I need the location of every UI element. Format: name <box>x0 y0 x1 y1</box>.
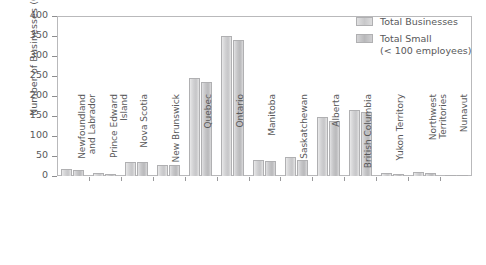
bar <box>317 117 328 176</box>
bar-fill <box>157 165 168 176</box>
y-axis-tick-label: 200 <box>30 89 48 100</box>
x-axis-label-line: Yukon Territory <box>396 94 406 184</box>
x-axis-label: Nunavut <box>460 94 470 184</box>
x-axis-label: NorthwestTerritories <box>429 94 448 184</box>
bar <box>61 169 72 176</box>
x-axis-label: Yukon Territory <box>396 94 406 184</box>
y-axis-tick-label: 100 <box>30 129 48 140</box>
x-axis-label: British Columbia <box>364 94 374 184</box>
legend-swatch-total-small <box>356 34 373 43</box>
bar <box>349 110 360 176</box>
bar-fill <box>413 172 424 176</box>
x-axis-tick-mark <box>217 177 218 181</box>
y-axis-tick-label: 50 <box>36 149 48 160</box>
x-axis-label: Alberta <box>332 94 342 184</box>
x-axis-label-line: Nunavut <box>460 94 470 184</box>
x-axis-tick-mark <box>280 177 281 181</box>
x-axis-label: Prince EdwardIsland <box>110 94 129 184</box>
x-axis-tick-mark <box>408 177 409 181</box>
x-axis-label: Manitoba <box>268 94 278 184</box>
bar-chart: Number of Businesses (000's) 05010015020… <box>0 0 486 265</box>
x-axis-tick-mark <box>249 177 250 181</box>
bar-fill <box>381 173 392 176</box>
legend-swatch-total-businesses <box>356 17 373 26</box>
bar-fill <box>61 169 72 176</box>
legend-label-total-small-line2: (< 100 employees) <box>380 45 478 57</box>
x-axis-tick-mark <box>185 177 186 181</box>
bar-fill <box>317 117 328 176</box>
bar <box>381 173 392 176</box>
x-axis-label: Quebec <box>204 94 214 184</box>
x-axis-label-line: and Labrador <box>87 94 97 184</box>
x-axis-label-line: Alberta <box>332 94 342 184</box>
y-axis-tick-label: 400 <box>30 9 48 20</box>
y-axis-tick-label: 150 <box>30 109 48 120</box>
x-axis-tick-mark <box>312 177 313 181</box>
bar-fill <box>253 160 264 176</box>
bar <box>189 78 200 176</box>
y-axis-tick-label: 0 <box>42 169 48 180</box>
x-axis-label-line: Quebec <box>204 94 214 184</box>
x-axis-tick-mark <box>153 177 154 181</box>
x-axis-label: Newfoundlandand Labrador <box>78 94 97 184</box>
bar <box>221 36 232 176</box>
bar-fill <box>221 36 232 176</box>
legend-item-total-businesses: Total Businesses <box>356 16 478 28</box>
bar-fill <box>349 110 360 176</box>
x-axis-label-line: Territories <box>439 94 449 184</box>
x-axis-label-line: Nova Scotia <box>140 94 150 184</box>
legend-label-total-small-line1: Total Small <box>380 33 478 45</box>
x-axis-label: Saskatchewan <box>300 94 310 184</box>
x-axis-label-line: Island <box>119 94 129 184</box>
x-axis-label-line: British Columbia <box>364 94 374 184</box>
x-axis-tick-mark <box>344 177 345 181</box>
bar <box>413 172 424 176</box>
x-axis-label-line: Saskatchewan <box>300 94 310 184</box>
x-axis-label: Ontario <box>236 94 246 184</box>
y-axis-tick-mark <box>52 176 57 177</box>
bar <box>157 165 168 176</box>
y-axis-tick-label: 300 <box>30 49 48 60</box>
legend-item-total-small: Total Small (< 100 employees) <box>356 33 478 56</box>
bar <box>285 157 296 176</box>
chart-legend: Total Businesses Total Small (< 100 empl… <box>356 16 478 61</box>
bar-fill <box>189 78 200 176</box>
x-axis-label-line: Manitoba <box>268 94 278 184</box>
y-axis-tick-label: 350 <box>30 29 48 40</box>
x-axis-label: New Brunswick <box>172 94 182 184</box>
x-axis-label-line: Prince Edward <box>110 94 120 184</box>
bar <box>253 160 264 176</box>
y-axis-tick-label: 250 <box>30 69 48 80</box>
legend-label-total-businesses: Total Businesses <box>380 16 478 28</box>
bar-fill <box>285 157 296 176</box>
x-axis-label: Nova Scotia <box>140 94 150 184</box>
x-axis-label-line: New Brunswick <box>172 94 182 184</box>
x-axis-tick-mark <box>376 177 377 181</box>
x-axis-label-line: Ontario <box>236 94 246 184</box>
